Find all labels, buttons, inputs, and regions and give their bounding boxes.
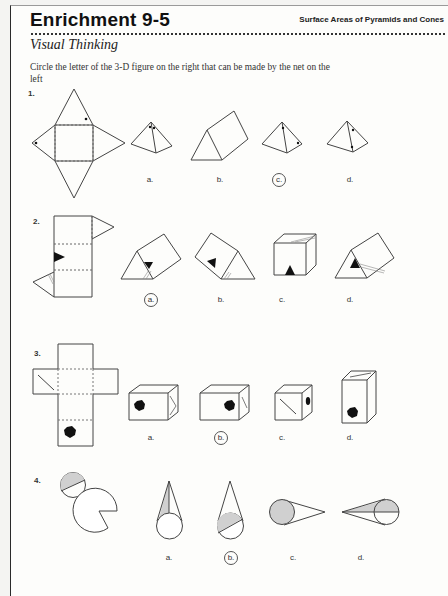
q2-option-b-figure: [194, 228, 256, 283]
q4-option-d-figure: [341, 497, 401, 529]
q3-net: [33, 344, 121, 448]
q2-option-b[interactable]: b.: [214, 293, 228, 307]
q1-option-b[interactable]: b.: [213, 173, 227, 187]
q1-option-c[interactable]: c.: [272, 173, 286, 187]
q4-option-a[interactable]: a.: [162, 551, 176, 565]
lesson-topic: Surface Areas of Pyramids and Cones: [299, 15, 444, 24]
q3-option-d-figure: [341, 370, 383, 425]
q3-option-c[interactable]: c.: [275, 431, 289, 445]
question-4-number: 4.: [34, 476, 41, 485]
q2-option-a[interactable]: a.: [144, 293, 158, 307]
q4-option-d[interactable]: d.: [354, 551, 368, 565]
q3-option-c-figure: [274, 384, 316, 422]
q1-option-d[interactable]: d.: [343, 173, 357, 187]
q4-option-b[interactable]: b.: [224, 551, 238, 565]
q2-option-c-figure: [273, 233, 318, 278]
q1-net-bottom: [55, 161, 95, 183]
q4-option-a-figure: [155, 480, 185, 542]
q2-net: [32, 216, 117, 298]
dotted-divider: [30, 33, 446, 35]
worksheet-title: Enrichment 9-5: [30, 9, 170, 31]
q1-option-d-figure: [325, 120, 370, 155]
q2-option-c[interactable]: c.: [275, 293, 289, 307]
q1-option-c-figure: [260, 120, 305, 155]
q1-option-a-figure: [130, 120, 175, 155]
q2-option-d-figure: [334, 227, 396, 282]
q4-net: [60, 471, 122, 537]
q3-option-b[interactable]: b.: [214, 431, 228, 445]
q1-option-a[interactable]: a.: [143, 173, 157, 187]
q2-option-d[interactable]: d.: [343, 293, 357, 307]
q1-option-b-figure: [188, 108, 248, 163]
instructions: Circle the letter of the 3-D figure on t…: [30, 61, 330, 85]
q3-option-d[interactable]: d.: [343, 431, 357, 445]
q4-option-c[interactable]: c.: [286, 551, 300, 565]
q2-option-a-figure: [120, 228, 182, 283]
q3-option-a-figure: [128, 384, 180, 422]
q4-option-c-figure: [268, 498, 328, 530]
q3-option-b-figure: [199, 384, 251, 422]
q4-option-b-figure: [216, 480, 246, 542]
section-title: Visual Thinking: [30, 37, 118, 53]
q3-option-a[interactable]: a.: [144, 431, 158, 445]
